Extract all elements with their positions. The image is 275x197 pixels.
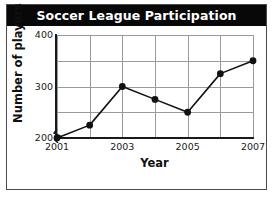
data-point-2001: [54, 135, 61, 142]
data-point-2007: [250, 57, 257, 64]
data-point-2006: [217, 70, 224, 77]
data-point-2002: [86, 122, 93, 129]
y-axis-title: Number of players: [11, 3, 25, 123]
data-point-2004: [152, 96, 159, 103]
chart-figure: Soccer League Participation 400 300 200 …: [0, 0, 275, 197]
data-point-2005: [184, 109, 191, 116]
x-axis-title: Year: [55, 156, 254, 170]
data-point-2003: [119, 83, 126, 90]
